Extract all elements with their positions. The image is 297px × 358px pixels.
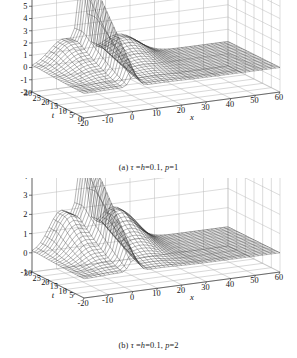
- x-tick-label: 20: [177, 106, 185, 115]
- z-tick-label: 3: [23, 27, 27, 36]
- x-tick-label: -20: [77, 119, 88, 128]
- x-tick-label: 10: [152, 109, 160, 118]
- caption-a-eq1: =: [134, 163, 141, 172]
- t-axis-label: t: [52, 110, 55, 120]
- x-tick-label: 0: [130, 113, 134, 122]
- t-tick-label: 25: [33, 274, 41, 283]
- x-tick-label: 50: [250, 96, 258, 105]
- x-tick-label: 40: [226, 280, 234, 289]
- z-tick-label: 4: [23, 178, 28, 181]
- caption-a: (a) τ =h=0.1, p=1: [0, 163, 297, 172]
- z-tick-label: 0: [23, 63, 27, 72]
- caption-b-eq2: =0.1,: [145, 341, 165, 350]
- x-tick-label: 40: [226, 100, 234, 109]
- caption-a-eq3: =1: [169, 163, 178, 172]
- x-axis-label: x: [189, 292, 194, 302]
- t-tick-label: 25: [33, 94, 41, 103]
- caption-b-eq3: =2: [169, 341, 178, 350]
- caption-b: (b) τ =h=0.1, p=2: [0, 341, 297, 350]
- surface-plot-a-svg: -2-10123456051015202530t-20-100102030405…: [0, 0, 297, 162]
- caption-a-index: (a): [119, 163, 129, 172]
- z-tick-label: 2: [23, 39, 27, 48]
- mesh-surface: [32, 0, 280, 93]
- x-axis-label: x: [189, 112, 194, 122]
- t-tick-label: 10: [59, 287, 67, 296]
- t-tick-label: 30: [24, 269, 32, 278]
- z-tick-label: 1: [23, 51, 27, 60]
- x-tick-label: -20: [77, 299, 88, 308]
- z-tick-label: 1: [23, 230, 27, 239]
- x-tick-label: 20: [177, 286, 185, 295]
- x-tick-label: 60: [275, 93, 283, 102]
- z-tick-label: 4: [23, 14, 28, 23]
- z-tick-label: 2: [23, 210, 27, 219]
- x-tick-label: 30: [201, 103, 209, 112]
- z-tick-label: 5: [23, 2, 27, 11]
- caption-b-index: (b): [118, 341, 128, 350]
- surface-plot-panel-b: -10123451015202530t-20-100102030405060x …: [0, 178, 297, 358]
- x-tick-label: 50: [250, 276, 258, 285]
- t-tick-label: 30: [24, 89, 32, 98]
- x-tick-label: 60: [275, 273, 283, 282]
- plot-area-a: -2-10123456051015202530t-20-100102030405…: [0, 0, 297, 162]
- figure-container: -2-10123456051015202530t-20-100102030405…: [0, 0, 297, 358]
- z-tick-label: -1: [21, 76, 28, 85]
- x-tick-label: 10: [152, 289, 160, 298]
- x-tick-label: -10: [102, 116, 113, 125]
- surface-plot-panel-a: -2-10123456051015202530t-20-100102030405…: [0, 0, 297, 180]
- t-tick-label: 20: [41, 98, 49, 107]
- caption-a-eq2: =0.1,: [145, 163, 165, 172]
- t-tick-label: 5: [69, 291, 73, 300]
- x-tick-label: -10: [102, 296, 113, 305]
- caption-b-eq1: =: [134, 341, 141, 350]
- t-tick-label: 10: [59, 107, 67, 116]
- x-tick-label: 0: [130, 293, 134, 302]
- surface-plot-b-svg: -10123451015202530t-20-100102030405060x: [0, 178, 297, 340]
- mesh-surface: [32, 178, 280, 279]
- x-tick-label: 30: [201, 283, 209, 292]
- t-tick-label: 20: [41, 278, 49, 287]
- z-tick-label: 0: [23, 249, 27, 258]
- t-axis-label: t: [52, 290, 55, 300]
- plot-area-b: -10123451015202530t-20-100102030405060x: [0, 178, 297, 340]
- t-tick-label: 5: [69, 111, 73, 120]
- z-tick-label: 3: [23, 191, 27, 200]
